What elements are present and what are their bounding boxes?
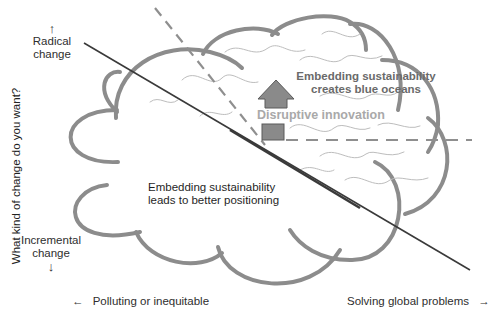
left-arrow-icon: ← [72,295,84,307]
radical-change-label: ↑ Radical change [28,22,76,61]
down-arrow-icon: ↓ [18,260,84,273]
right-arrow-icon: → [478,295,490,307]
better-positioning-label: Embedding sustainability leads to better… [148,181,268,207]
disruptive-innovation-label: Disruptive innovation [257,109,385,122]
x-axis-left-label: ← Polluting or inequitable [72,295,209,308]
incremental-change-label: Incremental change ↓ [18,234,84,273]
x-axis-right-label: Solving global problems → [347,295,490,308]
up-arrow-icon: ↑ [28,22,76,35]
blue-oceans-label: Embedding sustainability creates blue oc… [296,70,436,96]
cloud-outline [71,16,448,283]
